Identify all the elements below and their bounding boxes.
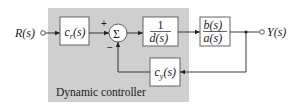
plus-sign: + — [101, 18, 107, 29]
output-terminal — [260, 30, 265, 35]
block-diagram: R(s) cr(s) Σ + − 1 d(s) b(s) a(s) Y(s) c… — [0, 0, 303, 107]
block-inverse-d: 1 d(s) — [143, 17, 178, 46]
minus-sign: − — [107, 42, 113, 53]
svg-text:cy(s): cy(s) — [155, 65, 177, 81]
svg-text:d(s): d(s) — [150, 31, 169, 45]
controller-caption: Dynamic controller — [56, 86, 146, 99]
block-cr: cr(s) — [60, 17, 89, 45]
input-terminal — [41, 31, 46, 36]
summing-junction: Σ — [109, 24, 127, 42]
svg-text:cr(s): cr(s) — [65, 25, 86, 41]
svg-text:a(s): a(s) — [204, 31, 223, 45]
svg-text:Σ: Σ — [113, 27, 120, 41]
svg-text:b(s): b(s) — [204, 18, 223, 32]
svg-text:1: 1 — [158, 18, 164, 32]
output-label: Y(s) — [267, 25, 286, 39]
block-cy: cy(s) — [150, 58, 180, 86]
input-label: R(s) — [14, 26, 35, 40]
block-plant: b(s) a(s) — [200, 17, 230, 46]
